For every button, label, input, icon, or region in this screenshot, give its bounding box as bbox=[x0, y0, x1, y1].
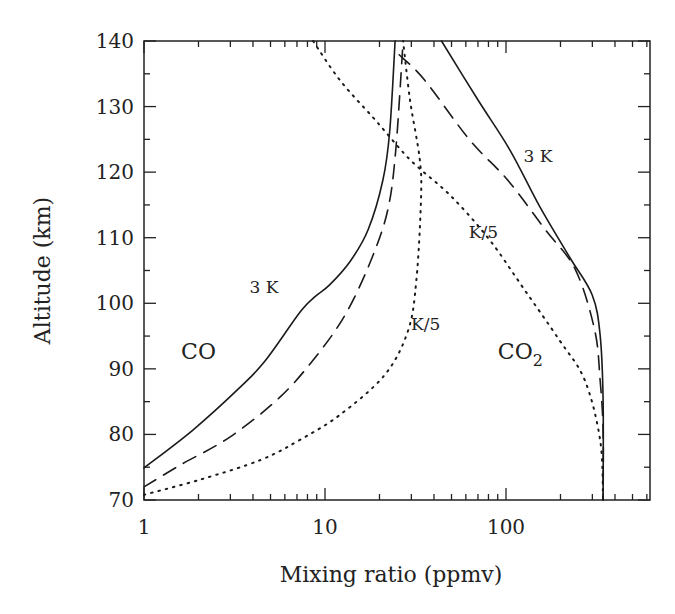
y-tick-label: 130 bbox=[96, 95, 134, 119]
x-tick-label: 10 bbox=[312, 515, 337, 539]
series-co2-3-k bbox=[442, 41, 604, 500]
series-co-k-5 bbox=[144, 41, 421, 495]
plot-frame bbox=[144, 41, 650, 500]
y-tick-label: 120 bbox=[96, 160, 134, 184]
chart: 110100708090100110120130140Mixing ratio … bbox=[0, 0, 675, 614]
x-tick-label: 1 bbox=[138, 515, 151, 539]
x-axis-title: Mixing ratio (ppmv) bbox=[280, 562, 503, 587]
annotation: CO bbox=[181, 339, 216, 364]
y-axis-title: Altitude (km) bbox=[30, 197, 55, 345]
annotation: 3 K bbox=[523, 146, 552, 166]
series-co-3-k bbox=[144, 41, 395, 468]
annotation: K/5 bbox=[411, 314, 440, 334]
y-tick-label: 140 bbox=[96, 29, 134, 53]
series-co2-k bbox=[399, 55, 603, 500]
y-tick-label: 110 bbox=[96, 226, 134, 250]
y-tick-label: 100 bbox=[96, 291, 134, 315]
annotation: 3 K bbox=[249, 277, 278, 297]
annotation-subscript: 2 bbox=[533, 351, 543, 370]
series-co2-k-5 bbox=[313, 41, 603, 500]
annotation: K/5 bbox=[469, 222, 498, 242]
y-tick-label: 70 bbox=[109, 488, 134, 512]
y-tick-label: 90 bbox=[109, 357, 134, 381]
annotation: CO2 bbox=[498, 339, 543, 370]
y-tick-label: 80 bbox=[109, 422, 134, 446]
x-tick-label: 100 bbox=[487, 515, 525, 539]
